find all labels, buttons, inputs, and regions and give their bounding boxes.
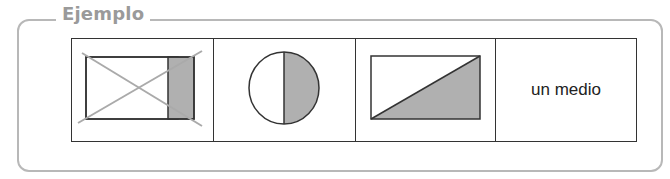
cell-answer: un medio bbox=[496, 39, 636, 141]
answer-label: un medio bbox=[496, 39, 636, 141]
cell-diagonal-rectangle bbox=[356, 39, 496, 141]
cell-crossed-rectangle bbox=[72, 39, 214, 141]
half-circle-figure bbox=[214, 39, 356, 141]
diagonal-rectangle-figure bbox=[356, 39, 496, 141]
crossed-rectangle-figure bbox=[72, 39, 214, 141]
example-table: un medio bbox=[71, 38, 637, 142]
cell-half-circle bbox=[214, 39, 356, 141]
section-title: Ejemplo bbox=[56, 2, 150, 26]
